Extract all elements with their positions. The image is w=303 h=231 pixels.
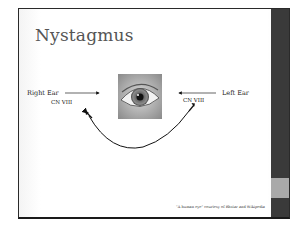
image-credit-caption: "A human eye" courtesy of Rhstar and Wik… bbox=[176, 205, 265, 209]
sidebar-accent-block bbox=[271, 178, 289, 198]
diagram-arrows bbox=[19, 9, 290, 219]
decorative-sidebar bbox=[271, 9, 289, 217]
slide: Nystagmus Right Ear CN VIII Left Ear CN … bbox=[18, 8, 290, 219]
